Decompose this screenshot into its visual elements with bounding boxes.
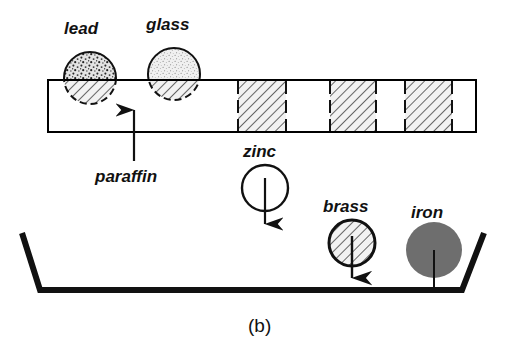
brass-ball bbox=[329, 220, 375, 278]
zinc-ball bbox=[242, 165, 288, 224]
figure-caption: (b) bbox=[248, 315, 271, 336]
slab-block-3 bbox=[405, 81, 452, 131]
label-zinc: zinc bbox=[242, 142, 277, 161]
label-brass: brass bbox=[323, 197, 368, 216]
label-paraffin: paraffin bbox=[94, 167, 157, 186]
label-lead: lead bbox=[64, 19, 99, 38]
glass-ball bbox=[148, 48, 200, 100]
iron-ball bbox=[406, 222, 462, 289]
diagram-canvas: lead glass paraffin zinc brass iron (b) bbox=[0, 0, 511, 352]
label-glass: glass bbox=[145, 15, 189, 34]
label-iron: iron bbox=[411, 203, 443, 222]
slab-block-2 bbox=[330, 81, 376, 131]
slab-block-1 bbox=[238, 81, 286, 131]
lead-ball bbox=[64, 52, 116, 104]
density-demonstration-figure: lead glass paraffin zinc brass iron (b) bbox=[0, 0, 511, 352]
